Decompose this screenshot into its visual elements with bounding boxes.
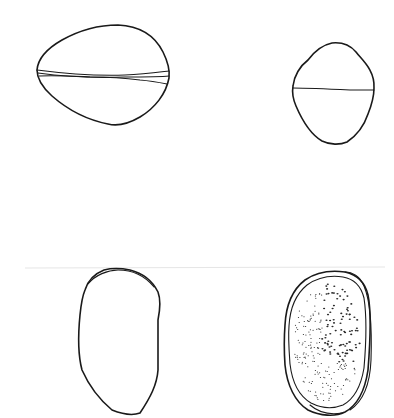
scan-artifact: [25, 267, 385, 268]
grain-bottom-left: [79, 269, 160, 415]
stipple-pattern: [294, 284, 360, 401]
grain-top-left: [37, 25, 169, 125]
grain-top-right: [293, 43, 374, 144]
illustration-canvas: [0, 0, 394, 418]
drawing: [0, 0, 394, 418]
